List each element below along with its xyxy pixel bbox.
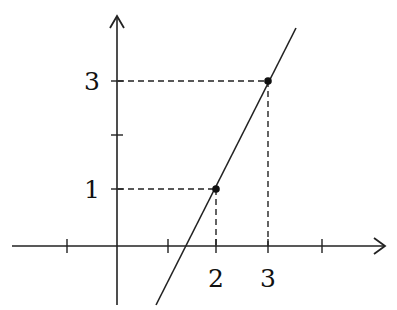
coordinate-diagram: 2 3 1 3 bbox=[0, 0, 397, 310]
point-2-1 bbox=[212, 185, 220, 193]
x-label-3: 3 bbox=[260, 264, 276, 293]
x-label-2: 2 bbox=[208, 264, 224, 293]
y-label-1: 1 bbox=[84, 175, 100, 204]
dashed-guides bbox=[118, 81, 268, 246]
y-label-3: 3 bbox=[84, 67, 100, 96]
point-3-3 bbox=[264, 77, 272, 85]
